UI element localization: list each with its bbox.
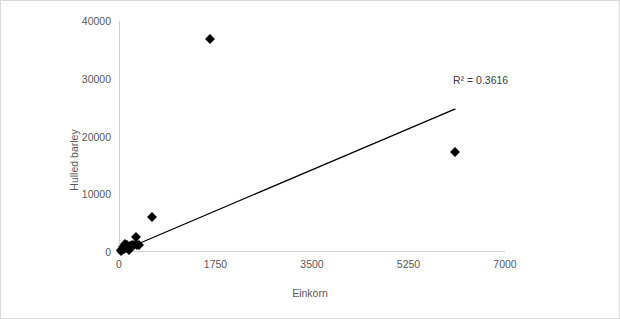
y-tick-label: 0 <box>59 246 111 258</box>
scatter-chart-figure: Hulled barley 010000200003000040000 0175… <box>0 0 620 319</box>
plot-area <box>119 21 505 252</box>
y-tick-label: 30000 <box>59 73 111 85</box>
trendline <box>119 21 505 252</box>
y-tick-label: 10000 <box>59 188 111 200</box>
y-tick-label: 40000 <box>59 15 111 27</box>
x-tick-label: 3500 <box>300 258 323 270</box>
r-squared-annotation: R² = 0.3616 <box>453 74 508 86</box>
x-axis-title: Einkorn <box>1 287 619 299</box>
x-tick-label: 7000 <box>493 258 516 270</box>
x-tick-label: 1750 <box>204 258 227 270</box>
x-tick-label: 5250 <box>397 258 420 270</box>
y-tick-label: 20000 <box>59 131 111 143</box>
x-tick-label: 0 <box>116 258 122 270</box>
